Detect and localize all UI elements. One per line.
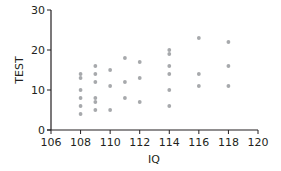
data-point xyxy=(123,56,127,60)
data-point xyxy=(79,96,83,100)
x-tick-label: 106 xyxy=(41,136,62,149)
data-point xyxy=(79,88,83,92)
data-point xyxy=(93,72,97,76)
data-point xyxy=(93,64,97,68)
data-point xyxy=(93,100,97,104)
data-point xyxy=(167,52,171,56)
y-tick-label: 10 xyxy=(31,84,45,97)
x-tick-label: 114 xyxy=(159,136,180,149)
data-point xyxy=(167,104,171,108)
data-point xyxy=(167,48,171,52)
y-axis: 0102030 xyxy=(31,4,51,137)
data-point xyxy=(197,72,201,76)
data-point xyxy=(167,64,171,68)
x-axis-label: IQ xyxy=(148,153,160,166)
data-point xyxy=(138,60,142,64)
y-axis-label: TEST xyxy=(13,56,26,85)
data-point xyxy=(227,84,231,88)
data-point xyxy=(93,96,97,100)
data-point xyxy=(167,72,171,76)
data-point xyxy=(123,80,127,84)
x-axis: 106108110112114116118120 xyxy=(41,130,269,149)
data-point xyxy=(79,72,83,76)
data-point xyxy=(79,112,83,116)
data-point xyxy=(167,88,171,92)
y-tick-label: 30 xyxy=(31,4,45,17)
data-point xyxy=(93,80,97,84)
data-points xyxy=(79,36,231,116)
data-point xyxy=(93,108,97,112)
x-tick-label: 116 xyxy=(188,136,209,149)
data-point xyxy=(79,104,83,108)
scatter-chart: 0102030 106108110112114116118120 IQ TEST xyxy=(0,0,281,171)
data-point xyxy=(197,36,201,40)
y-tick-label: 20 xyxy=(31,44,45,57)
data-point xyxy=(138,100,142,104)
x-tick-label: 112 xyxy=(129,136,150,149)
data-point xyxy=(197,84,201,88)
x-tick-label: 120 xyxy=(248,136,269,149)
x-tick-label: 118 xyxy=(218,136,239,149)
data-point xyxy=(227,64,231,68)
data-point xyxy=(123,96,127,100)
data-point xyxy=(79,76,83,80)
data-point xyxy=(108,68,112,72)
data-point xyxy=(108,108,112,112)
data-point xyxy=(108,84,112,88)
data-point xyxy=(227,40,231,44)
x-tick-label: 108 xyxy=(70,136,91,149)
x-tick-label: 110 xyxy=(100,136,121,149)
data-point xyxy=(138,76,142,80)
